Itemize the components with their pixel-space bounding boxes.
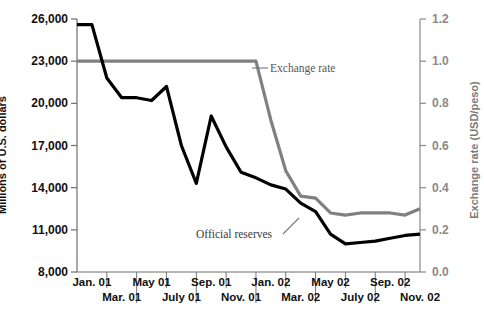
x-tick-label: July 01 (162, 291, 201, 303)
x-tick-label: Mar. 02 (281, 291, 320, 303)
x-tick-label: May 02 (311, 276, 349, 288)
x-tick-label: Nov. 01 (221, 291, 261, 303)
x-tick-label: Jan. 02 (251, 276, 290, 288)
x-tick-label: May 01 (132, 276, 170, 288)
x-tick-label: July 02 (341, 291, 380, 303)
exchange-rate-annotation: Exchange rate (270, 62, 335, 74)
x-tick-label: Jan. 01 (72, 276, 111, 288)
x-tick-label: Sep. 02 (370, 276, 410, 288)
official-reserves-line (77, 25, 420, 244)
x-tick-label: Mar. 01 (102, 291, 141, 303)
official-reserves-annotation: Official reserves (196, 228, 272, 240)
plot-area (0, 0, 484, 313)
x-tick-label: Nov. 02 (400, 291, 440, 303)
x-tick-label: Sep. 01 (191, 276, 231, 288)
exchange-rate-reserves-chart: Millions of U.S. dollars Exchange rate (… (0, 0, 484, 313)
official-reserves-leader-line (283, 218, 299, 234)
exchange-rate-line (77, 61, 420, 215)
